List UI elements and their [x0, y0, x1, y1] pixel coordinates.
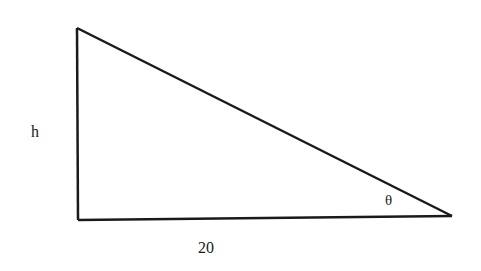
base-label: 20 [198, 240, 214, 256]
height-label: h [31, 124, 39, 140]
height-side [77, 28, 78, 220]
angle-theta-label: θ [385, 193, 392, 208]
base-side [78, 216, 452, 220]
hypotenuse [77, 28, 452, 216]
right-triangle-diagram: h 20 θ [0, 0, 481, 271]
triangle-figure [0, 0, 481, 271]
